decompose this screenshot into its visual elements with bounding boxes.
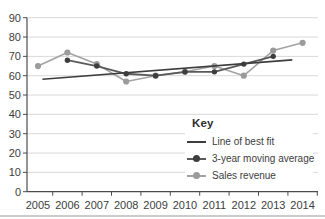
- x-tick-label: 2005: [26, 199, 50, 211]
- x-tick-label: 2007: [85, 199, 109, 211]
- x-tick-label: 2010: [173, 199, 197, 211]
- 3-year-moving-average-marker: [153, 73, 158, 78]
- sales-revenue-marker: [123, 78, 129, 84]
- x-tick-label: 2008: [114, 199, 138, 211]
- legend-item-sales-revenue: Sales revenue: [185, 167, 313, 184]
- 3-year-moving-average-marker: [271, 54, 276, 59]
- best-fit-line-swatch: [187, 137, 206, 146]
- x-tick-label: 2011: [203, 199, 227, 211]
- x-tick-label: 2006: [55, 199, 79, 211]
- 3-year-moving-average-marker: [182, 69, 187, 74]
- sales-revenue-marker: [300, 40, 306, 46]
- legend-label-moving-average: 3-year moving average: [212, 153, 314, 164]
- chart-svg: 0102030405060708090200520062007200820092…: [0, 0, 325, 219]
- y-tick-label: 0: [15, 186, 21, 198]
- legend-item-moving-average: 3-year moving average: [185, 150, 313, 167]
- y-tick-label: 10: [9, 166, 21, 178]
- sales-revenue-swatch: [187, 171, 206, 180]
- legend-label-line-of-best-fit: Line of best fit: [212, 136, 274, 147]
- 3-year-moving-average-marker: [65, 58, 70, 63]
- y-tick-label: 20: [9, 147, 21, 159]
- y-tick-label: 30: [9, 128, 21, 140]
- moving-average-swatch: [187, 154, 206, 163]
- legend-label-sales-revenue: Sales revenue: [212, 170, 276, 181]
- sales-revenue-marker: [241, 73, 247, 79]
- x-tick-label: 2012: [232, 199, 256, 211]
- y-tick-label: 90: [9, 12, 21, 24]
- chart-legend: Key Line of best fit 3-year moving avera…: [185, 115, 313, 184]
- y-tick-label: 40: [9, 108, 21, 120]
- sales-revenue-marker: [270, 47, 276, 53]
- bottom-border: [0, 215, 325, 217]
- x-tick-label: 2013: [261, 199, 285, 211]
- 3-year-moving-average-marker: [94, 63, 99, 68]
- y-tick-label: 50: [9, 89, 21, 101]
- chart-container: 0102030405060708090200520062007200820092…: [0, 0, 325, 219]
- y-tick-label: 70: [9, 50, 21, 62]
- sales-revenue-marker: [64, 49, 70, 55]
- x-tick-label: 2014: [290, 199, 314, 211]
- 3-year-moving-average-marker: [212, 69, 217, 74]
- y-tick-label: 80: [9, 31, 21, 43]
- x-tick-label: 2009: [143, 199, 167, 211]
- legend-title: Key: [185, 115, 313, 133]
- sales-revenue-marker: [35, 63, 41, 69]
- legend-item-line-of-best-fit: Line of best fit: [185, 133, 313, 150]
- y-tick-label: 60: [9, 70, 21, 82]
